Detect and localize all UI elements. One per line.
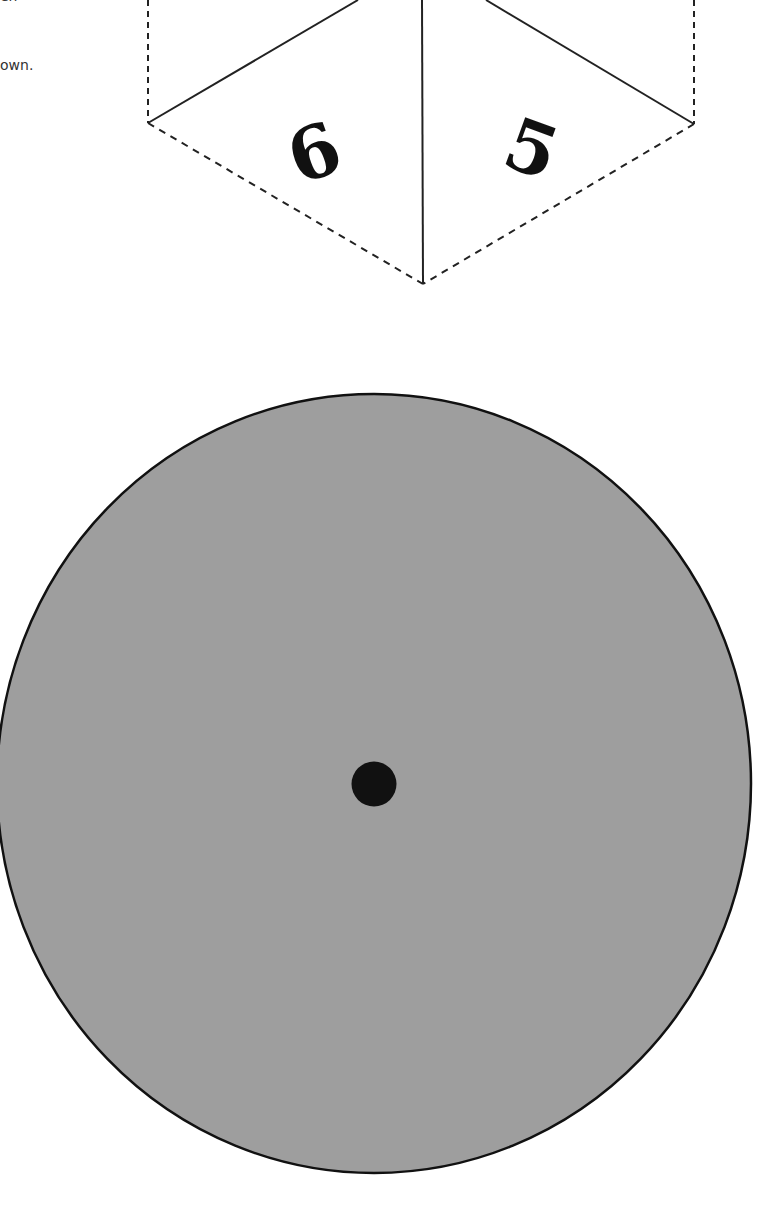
hexagon-net: 6 5 bbox=[148, 0, 694, 284]
craft-template-canvas: 6 5 bbox=[0, 0, 759, 1229]
spinner-center-hole bbox=[352, 762, 397, 807]
fold-line-center-vertical bbox=[422, 0, 423, 284]
spinner-disc bbox=[0, 394, 751, 1173]
face-label-6: 6 bbox=[276, 104, 352, 201]
fold-line-right-diagonal bbox=[486, 0, 694, 124]
face-label-5: 5 bbox=[494, 100, 570, 197]
fold-line-left-diagonal bbox=[148, 0, 358, 123]
